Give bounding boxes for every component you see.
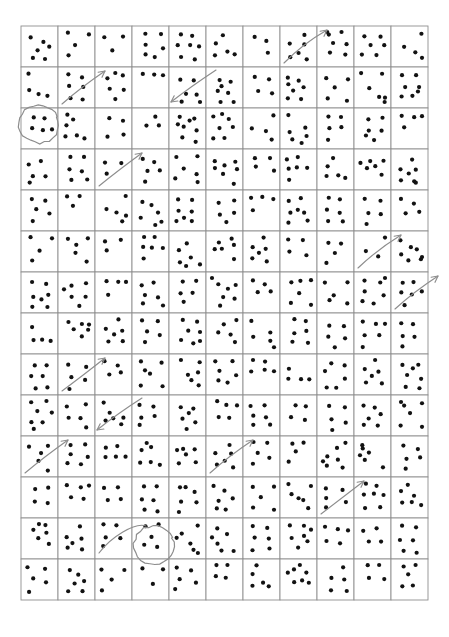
worksheet-page	[0, 0, 449, 637]
curve-r13c3	[99, 525, 146, 553]
arrow-r11c1	[25, 440, 68, 473]
arrow-shaft	[62, 358, 105, 391]
dot-grid[interactable]	[21, 26, 428, 600]
circled-cell-upper-left	[18, 105, 58, 144]
arrow-r11c6	[210, 440, 253, 473]
arrow-r4c3	[99, 153, 142, 186]
arrow-r2c2	[62, 71, 105, 104]
arrow-head-icon	[98, 71, 105, 77]
arrow-shaft	[210, 440, 253, 473]
circled-cell-lower-middle	[133, 526, 174, 565]
arrow-r2c5	[171, 70, 216, 102]
arrow-r6c10	[358, 235, 401, 268]
arrow-r12c9	[321, 481, 364, 514]
arrow-r1c8	[284, 30, 327, 63]
arrow-shaft	[358, 235, 401, 268]
arrow-head-icon	[246, 440, 253, 446]
arrow-r9c2	[62, 358, 105, 391]
arrow-shaft	[171, 70, 216, 102]
pencil-annotations-layer	[21, 26, 428, 600]
arrow-shaft	[395, 276, 438, 309]
arrow-head-icon	[431, 276, 438, 282]
arrow-shaft	[62, 71, 105, 104]
arrow-shaft	[97, 398, 142, 430]
arrow-shaft	[99, 153, 142, 186]
arrow-r7c11	[395, 276, 438, 309]
arrow-shaft	[284, 30, 327, 63]
arrow-shaft	[321, 481, 364, 514]
arrow-shaft	[25, 440, 68, 473]
arrow-r10c3	[97, 398, 142, 430]
